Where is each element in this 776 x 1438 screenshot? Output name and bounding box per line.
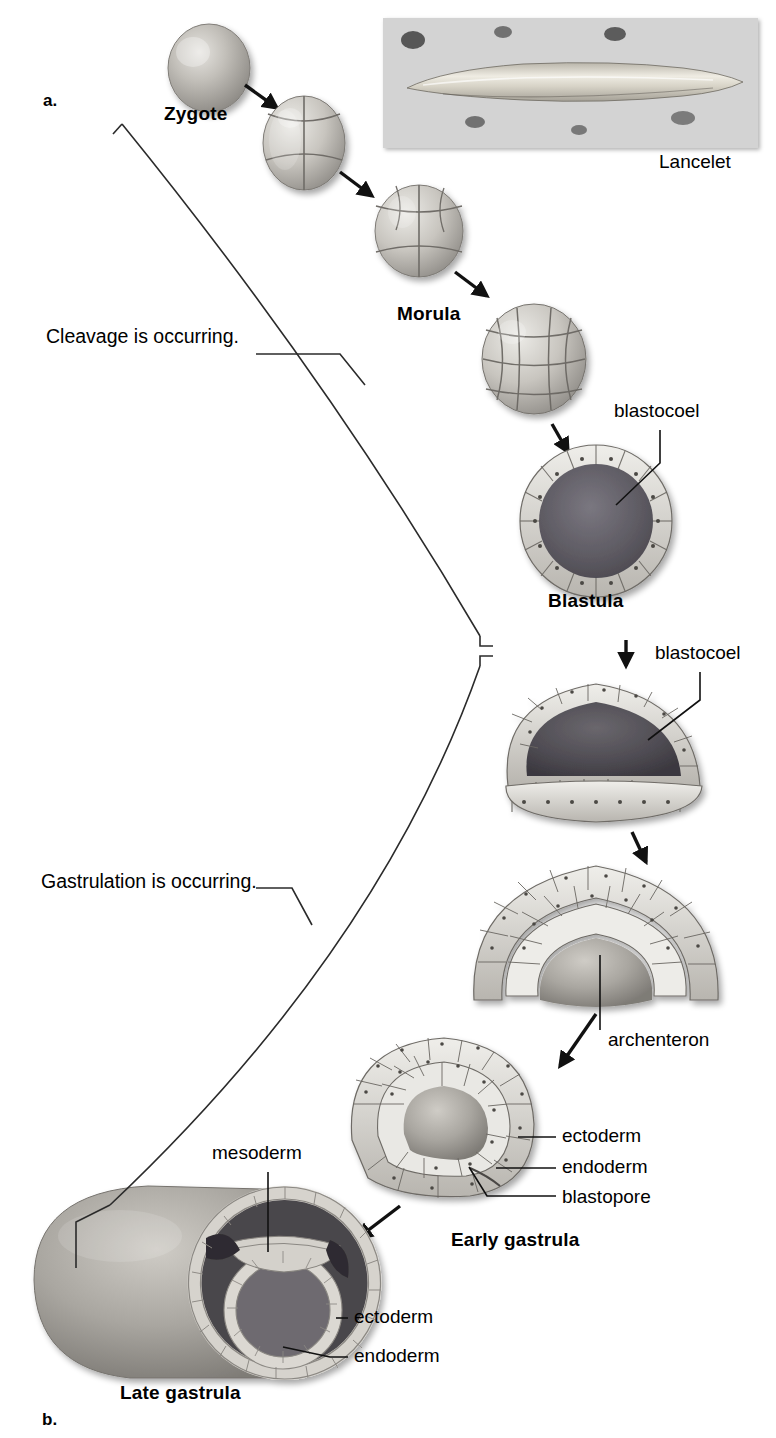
blastocoel-cavity bbox=[539, 464, 653, 578]
callout-blastocoel-gastrula: blastocoel bbox=[655, 643, 741, 662]
callout-late-mesoderm: mesoderm bbox=[212, 1143, 302, 1162]
arrow-zygote-to-cleavage bbox=[245, 85, 277, 108]
bracket-gastrulation-top-tip bbox=[480, 656, 493, 666]
callout-late-endoderm: endoderm bbox=[354, 1346, 440, 1365]
callout-archenteron: archenteron bbox=[608, 1030, 709, 1049]
arrow-morula-to-blastula bbox=[552, 424, 568, 452]
phase-label-gastrulation: Gastrulation is occurring. bbox=[41, 872, 257, 892]
embryo-early-gastrula bbox=[351, 1038, 534, 1198]
callout-early-ectoderm: ectoderm bbox=[562, 1126, 641, 1145]
leader-cleavage-label bbox=[256, 354, 365, 385]
embryo-gastrulation-stage2 bbox=[474, 866, 718, 1007]
bracket-cleavage-bottom-tip bbox=[480, 636, 493, 646]
arrow-to-early-gastrula bbox=[560, 1014, 596, 1066]
bracket-cleavage-top-tip bbox=[113, 124, 122, 134]
embryo-late-gastrula bbox=[34, 1186, 381, 1379]
stage-label-blastula: Blastula bbox=[548, 591, 624, 610]
embryo-four-cell bbox=[263, 96, 345, 190]
stage-label-zygote: Zygote bbox=[164, 104, 227, 123]
embryo-gastrulation-stage1 bbox=[506, 684, 702, 822]
phase-label-cleavage: Cleavage is occurring. bbox=[46, 327, 239, 347]
callout-early-endoderm: endoderm bbox=[562, 1157, 648, 1176]
photo-caption-lancelet: Lancelet bbox=[659, 152, 731, 171]
callout-blastocoel-blastula: blastocoel bbox=[614, 401, 700, 420]
stage-label-morula: Morula bbox=[397, 304, 460, 323]
diagram-artwork bbox=[0, 0, 776, 1438]
callout-early-blastopore: blastopore bbox=[562, 1187, 651, 1206]
arrow-to-morula bbox=[455, 272, 487, 296]
arrow-gastrulation-stage1-to-stage2 bbox=[632, 832, 646, 862]
stage-label-late-gastrula: Late gastrula bbox=[120, 1383, 241, 1402]
embryo-morula bbox=[482, 304, 586, 414]
embryo-zygote bbox=[168, 24, 250, 112]
leader-gastrulation-label bbox=[256, 888, 312, 925]
embryo-blastula bbox=[520, 445, 672, 597]
panel-a-letter: a. bbox=[43, 92, 57, 109]
lancelet-development-figure: a. Lancelet Zygote Morula Blastula Early… bbox=[0, 0, 776, 1438]
callout-late-ectoderm: ectoderm bbox=[354, 1307, 433, 1326]
panel-b-letter: b. bbox=[42, 1411, 57, 1428]
arrow-cleavage-to-morula-early bbox=[340, 172, 372, 196]
stage-label-early-gastrula: Early gastrula bbox=[451, 1230, 579, 1249]
embryo-eight-cell bbox=[375, 185, 463, 277]
